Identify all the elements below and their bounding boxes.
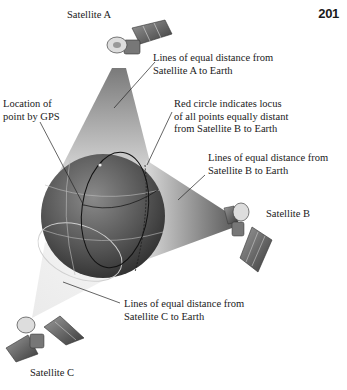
satellite-a-icon (107, 20, 172, 54)
page-number: 201 (318, 6, 339, 21)
satellite-b-icon (224, 203, 272, 272)
label-red-circle: Red circle indicates locus of all points… (174, 98, 288, 136)
gps-point (98, 163, 101, 166)
satellite-c-icon (6, 316, 84, 362)
label-satellite-a: Satellite A (67, 9, 111, 22)
label-lines-c: Lines of equal distance from Satellite C… (124, 298, 244, 323)
label-lines-a: Lines of equal distance from Satellite A… (153, 52, 273, 77)
leader-red-circle (147, 112, 172, 165)
label-lines-b: Lines of equal distance from Satellite B… (208, 152, 328, 177)
label-satellite-c: Satellite C (30, 367, 74, 380)
label-gps-location: Location of point by GPS (3, 98, 60, 123)
label-satellite-b: Satellite B (266, 208, 310, 221)
